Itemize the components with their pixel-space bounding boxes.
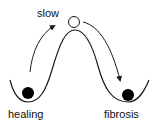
uphill-arrow (30, 26, 54, 72)
slow-label: slow (37, 7, 59, 19)
transition-ball-icon (69, 17, 80, 28)
fibrosis-ball-icon (122, 89, 134, 101)
fibrosis-label: fibrosis (104, 108, 139, 120)
healing-ball-icon (22, 87, 34, 99)
downhill-arrow (83, 22, 120, 80)
healing-label: healing (8, 108, 43, 120)
energy-landscape-diagram: slow healing fibrosis (0, 0, 158, 126)
